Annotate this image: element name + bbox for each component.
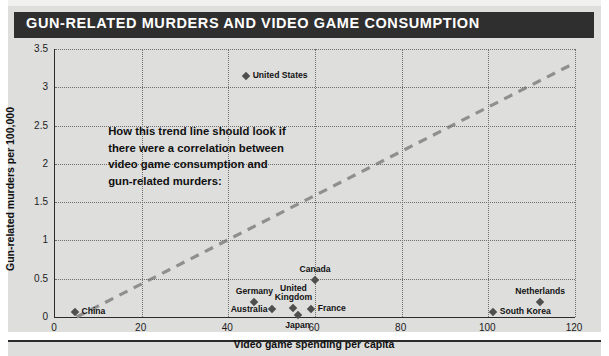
data-point-label: Australia (231, 305, 268, 315)
gridline-vertical (575, 49, 576, 317)
y-axis-tick-label: 0 (18, 311, 48, 322)
x-axis-tick-label: 40 (207, 322, 247, 333)
y-axis-tick-label: 3.5 (18, 43, 48, 54)
chart-title: GUN-RELATED MURDERS AND VIDEO GAME CONSU… (26, 15, 480, 31)
y-axis-tick-label: 2 (18, 158, 48, 169)
data-point-label: China (82, 307, 106, 317)
data-point-label: United States (253, 71, 308, 81)
y-axis-tick-label: 1.5 (18, 196, 48, 207)
x-axis-tick-label: 0 (34, 322, 74, 333)
data-point-label: Germany (236, 287, 273, 297)
gridline-vertical (488, 49, 489, 317)
x-axis-tick-label: 60 (294, 322, 334, 333)
y-axis-tick-label: 3 (18, 81, 48, 92)
data-point-label: UnitedKingdom (275, 284, 312, 303)
x-axis-tick-label: 80 (381, 322, 421, 333)
data-point-label: South Korea (500, 307, 551, 317)
data-point-label: Netherlands (515, 287, 565, 297)
trendline-annotation: How this trend line should look if there… (108, 123, 286, 189)
x-axis-tick-label: 120 (554, 322, 594, 333)
x-axis-title: Video game spending per capita (54, 338, 574, 350)
x-axis-tick-label: 100 (467, 322, 507, 333)
data-point-label: France (318, 304, 346, 314)
y-axis-tick-label: 2.5 (18, 120, 48, 131)
data-point-label: Canada (300, 265, 331, 275)
y-axis-title: Gun-related murders per 100,000 (4, 107, 16, 271)
y-axis-tick-label: 0.5 (18, 273, 48, 284)
x-axis-tick-label: 20 (121, 322, 161, 333)
right-margin (601, 0, 609, 354)
y-axis-tick-label: 1 (18, 234, 48, 245)
gridline-vertical (402, 49, 403, 317)
